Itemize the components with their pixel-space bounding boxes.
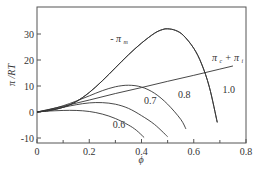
series-0-8 (37, 85, 186, 129)
y-tick-label: 10 (24, 81, 34, 92)
chart: 00.20.40.60.8 -100102030 - π mπ c + π i1… (0, 0, 266, 179)
y-tick-label: 20 (24, 55, 34, 66)
y-tick-label: -10 (21, 133, 34, 144)
curve-label: 0.8 (178, 89, 191, 100)
x-tick-label: 0.8 (240, 146, 253, 157)
plot-frame (37, 7, 246, 143)
x-axis-label: ϕ (138, 154, 143, 165)
curve-label: π c + π i (212, 52, 243, 64)
y-tick-label: 30 (24, 29, 34, 40)
series-group (37, 29, 233, 138)
y-tick-label: 0 (29, 107, 34, 118)
annotations: - π mπ c + π i1.00.80.70.6 (110, 33, 243, 130)
curve-label: 0.6 (113, 119, 126, 130)
curve-label: 1.0 (222, 84, 235, 95)
x-tick-label: 0 (35, 146, 40, 157)
y-axis-label: π /RT (6, 63, 17, 86)
x-tick-label: 0.2 (83, 146, 96, 157)
curve-label: - π m (110, 33, 128, 45)
y-axis: -100102030 (21, 29, 41, 144)
x-tick-label: 0.6 (188, 146, 201, 157)
series-0-6 (37, 110, 144, 137)
curve-label: 0.7 (144, 95, 157, 106)
